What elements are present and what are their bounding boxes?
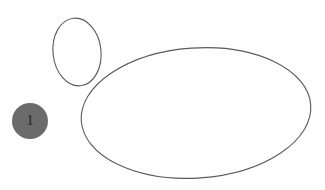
marker-label-text: 1	[26, 112, 34, 128]
numbered-marker-1: 1	[12, 103, 48, 139]
shape-illustration: 1	[0, 0, 325, 190]
figure-background	[0, 0, 325, 190]
figure-canvas: 1	[0, 0, 325, 190]
